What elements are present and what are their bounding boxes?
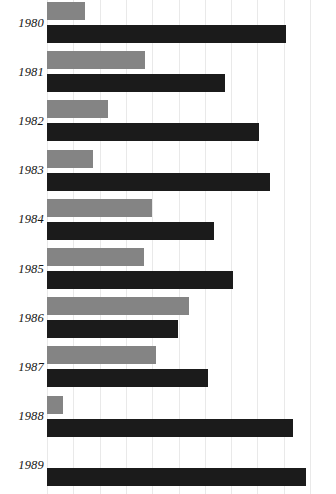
bar-light-1980 <box>47 2 85 20</box>
bar-row-group: 1980 <box>0 2 336 43</box>
plot-area: 1980198119821983198419851986198719881989 <box>0 0 336 494</box>
bar-dark-1988 <box>47 419 293 437</box>
bar-chart: 1980198119821983198419851986198719881989 <box>0 0 336 494</box>
bar-dark-1984 <box>47 222 214 240</box>
bar-row-group: 1986 <box>0 297 336 338</box>
year-axis-label: 1987 <box>0 361 44 374</box>
bar-light-1988 <box>47 396 63 414</box>
year-axis-label: 1988 <box>0 410 44 423</box>
bar-dark-1982 <box>47 123 259 141</box>
bar-dark-1986 <box>47 320 178 338</box>
year-axis-label: 1982 <box>0 115 44 128</box>
bar-dark-1981 <box>47 74 225 92</box>
year-axis-label: 1980 <box>0 17 44 30</box>
year-axis-label: 1986 <box>0 312 44 325</box>
bar-row-group: 1984 <box>0 199 336 240</box>
bar-light-1984 <box>47 199 152 217</box>
year-axis-label: 1985 <box>0 263 44 276</box>
bar-light-1986 <box>47 297 189 315</box>
bar-light-1982 <box>47 100 108 118</box>
year-axis-label: 1981 <box>0 66 44 79</box>
bar-light-1987 <box>47 346 156 364</box>
bar-row-group: 1985 <box>0 248 336 289</box>
bar-light-1981 <box>47 51 145 69</box>
bar-row-group: 1981 <box>0 51 336 92</box>
bar-light-1983 <box>47 150 93 168</box>
bar-row-group: 1987 <box>0 346 336 387</box>
bar-row-group: 1988 <box>0 396 336 437</box>
year-axis-label: 1984 <box>0 213 44 226</box>
year-axis-label: 1983 <box>0 164 44 177</box>
bar-light-1985 <box>47 248 144 266</box>
bar-dark-1985 <box>47 271 233 289</box>
bar-dark-1983 <box>47 173 270 191</box>
bar-row-group: 1989 <box>0 445 336 486</box>
bar-dark-1987 <box>47 369 208 387</box>
bar-dark-1980 <box>47 25 286 43</box>
bar-dark-1989 <box>47 468 306 486</box>
year-axis-label: 1989 <box>0 459 44 472</box>
bar-row-group: 1982 <box>0 100 336 141</box>
bar-row-group: 1983 <box>0 150 336 191</box>
